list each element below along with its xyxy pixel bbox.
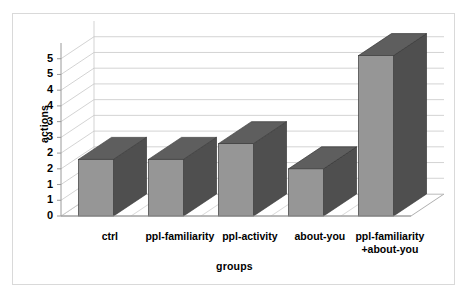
bar-front-face (79, 159, 114, 216)
y-tick-label: 3 (29, 116, 53, 127)
bar-front-face (289, 169, 324, 216)
y-tick-label: 1 (29, 194, 53, 205)
bar-front-face (149, 159, 184, 216)
bar-front-face (219, 144, 254, 216)
y-tick-label: 1 (29, 179, 53, 190)
bar-front-face (359, 56, 394, 216)
bar (359, 34, 427, 216)
y-tick-label: 5 (29, 68, 53, 79)
x-tick-label: ppl-familiarity +about-you (346, 230, 434, 255)
y-tick-label: 2 (29, 163, 53, 174)
bar-side-face (394, 34, 427, 216)
y-tick-label: 0 (29, 210, 53, 221)
y-tick-label: 4 (29, 100, 53, 111)
x-axis-title: groups (13, 260, 456, 272)
y-tick-label: 3 (29, 131, 53, 142)
y-tick-label: 5 (29, 53, 53, 64)
y-tick-label: 4 (29, 84, 53, 95)
y-tick-label: 2 (29, 147, 53, 158)
chart-frame: actions groups 01122334455 ctrlppl-famil… (12, 13, 455, 285)
